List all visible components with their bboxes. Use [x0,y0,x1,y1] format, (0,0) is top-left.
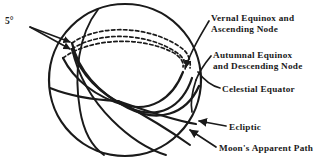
celestial-equator-label: Celestial Equator [222,84,295,95]
autumnal-equinox-label-line1: Autumnal Equinox [213,50,303,61]
autumnal-equinox-label: Autumnal Equinox and Descending Node [213,50,303,71]
vernal-equinox-label-line2: Ascending Node [211,24,294,35]
moon-path-back-arc-dashed [72,30,190,68]
ecliptic-label: Ecliptic [229,122,261,133]
vernal-equinox-label-line1: Vernal Equinox and [211,13,294,24]
leader-angle-lower [30,27,70,49]
vernal-equinox-label: Vernal Equinox and Ascending Node [211,13,294,34]
lower-front-arc-b [118,101,190,145]
celestial-sphere-figure: 5° Vernal Equinox and Ascending Node Aut… [0,0,334,163]
leader-moon-path [190,130,216,147]
autumnal-equinox-label-line2: and Descending Node [213,61,303,72]
moon-apparent-path-label: Moon's Apparent Path [219,143,313,154]
angle-label: 5° [5,16,14,27]
ecliptic-front-arc [72,49,192,113]
leader-ecliptic [199,121,226,126]
